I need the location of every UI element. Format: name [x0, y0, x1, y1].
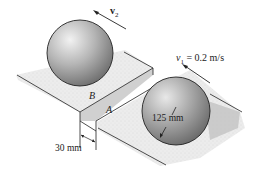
velocity-v2-label: v2 — [110, 6, 119, 19]
v2-subscript: 2 — [115, 11, 119, 19]
velocity-v1-label: v1 = 0.2 m/s — [176, 53, 224, 66]
point-b-label: B — [89, 91, 95, 101]
sphere-lower — [142, 77, 210, 145]
radius-label: 125 mm — [152, 114, 183, 124]
step-dimension — [81, 135, 95, 142]
point-a-label: A — [106, 105, 112, 115]
diagram-canvas — [0, 0, 256, 180]
sphere-upper — [47, 20, 113, 86]
step-height-label: 30 mm — [55, 144, 82, 154]
v1-value: = 0.2 m/s — [184, 52, 224, 63]
